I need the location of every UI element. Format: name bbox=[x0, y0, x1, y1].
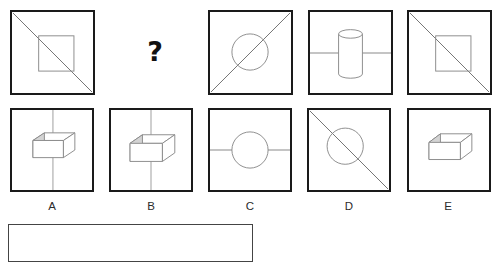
diagonal-line-tl-br bbox=[13, 13, 92, 92]
box-front-face bbox=[33, 140, 63, 157]
figure-box-only bbox=[409, 110, 489, 190]
inner-square-outline bbox=[39, 36, 74, 71]
option-label-b: B bbox=[136, 200, 166, 212]
figure-circle-diagonal-d bbox=[309, 110, 389, 190]
circle-outline bbox=[232, 132, 268, 168]
option-label-a: A bbox=[37, 200, 67, 212]
cylinder-top-ellipse bbox=[339, 30, 363, 39]
option-label-e: E bbox=[433, 200, 463, 212]
option-e[interactable] bbox=[407, 108, 491, 192]
figure-box-vertical-line-b bbox=[111, 110, 191, 190]
circle-outline bbox=[232, 34, 268, 70]
figure-circle-diagonal bbox=[210, 12, 291, 93]
cuboid-3d bbox=[130, 135, 175, 162]
figure-square-diagonal-1 bbox=[12, 12, 93, 93]
option-c[interactable] bbox=[208, 108, 292, 192]
diagonal-line-tl-br bbox=[410, 13, 489, 92]
option-d[interactable] bbox=[307, 108, 391, 192]
question-mark: ? bbox=[140, 38, 170, 65]
cylinder-bottom-arc bbox=[339, 74, 363, 78]
inner-square-outline bbox=[436, 36, 471, 71]
puzzle-canvas: ? bbox=[0, 0, 500, 265]
cuboid-3d bbox=[429, 134, 472, 160]
figure-cylinder-line bbox=[310, 12, 391, 93]
diagonal-line-tl-br bbox=[310, 111, 388, 189]
figure-square-diagonal-2 bbox=[409, 12, 490, 93]
option-label-d: D bbox=[334, 200, 364, 212]
stimulus-cell-1 bbox=[10, 10, 95, 95]
cuboid-3d bbox=[33, 133, 75, 158]
figure-circle-horizontal-line bbox=[210, 110, 290, 190]
cylinder-3d bbox=[339, 30, 363, 79]
option-label-c: C bbox=[235, 200, 265, 212]
figure-box-vertical-line-a bbox=[12, 110, 92, 190]
box-front-face bbox=[429, 142, 460, 159]
stimulus-cell-4 bbox=[407, 10, 492, 95]
option-a[interactable] bbox=[10, 108, 94, 192]
stimulus-cell-2 bbox=[208, 10, 293, 95]
diagonal-line-bl-tr bbox=[211, 13, 290, 92]
stimulus-cell-3 bbox=[308, 10, 393, 95]
cropped-header-text bbox=[0, 0, 500, 3]
option-b[interactable] bbox=[109, 108, 193, 192]
answer-input[interactable] bbox=[8, 224, 253, 262]
box-front-face bbox=[130, 143, 162, 161]
